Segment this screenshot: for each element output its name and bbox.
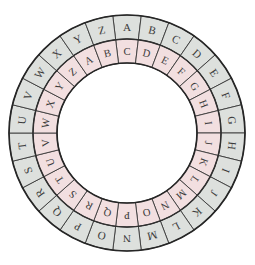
- cipher-wheel: ABCDEFGHIJKLMNOPQRSTUVWXYZ CDEFGHIJKLMNO…: [0, 0, 255, 265]
- cipher-cell[interactable]: [113, 15, 141, 40]
- cipher-cell[interactable]: [116, 202, 139, 227]
- cipher-cell[interactable]: [116, 39, 139, 64]
- wheel-hub: [58, 64, 196, 202]
- cipher-wheel-diagram: ABCDEFGHIJKLMNOPQRSTUVWXYZ CDEFGHIJKLMNO…: [0, 0, 255, 265]
- cipher-cell[interactable]: [113, 226, 141, 251]
